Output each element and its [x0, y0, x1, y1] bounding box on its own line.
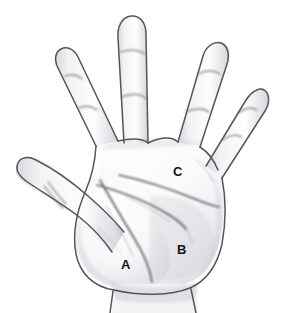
region-label-b: B [177, 243, 186, 256]
region-label-c: C [173, 165, 182, 178]
ring-finger-fill [178, 41, 229, 147]
region-label-a: A [121, 258, 130, 271]
hand-diagram-figure: A B C [0, 0, 283, 313]
hand-illustration [0, 0, 283, 313]
index-finger-fill [55, 47, 118, 146]
